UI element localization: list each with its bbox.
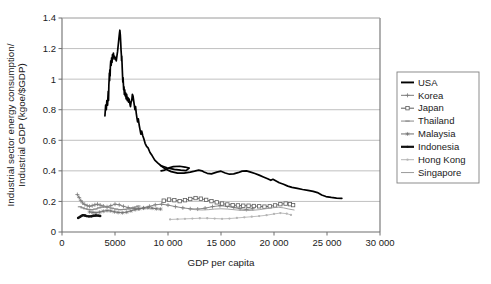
series-hong-kong [169, 212, 292, 221]
series-indonesia [77, 214, 101, 219]
legend-label: USA [418, 77, 438, 88]
series-marker [279, 212, 281, 214]
series-marker [117, 203, 121, 207]
legend-label: Indonesia [418, 141, 460, 152]
series-marker [257, 205, 260, 208]
legend-label: Malaysia [418, 128, 456, 139]
x-tick-label: 10 000 [153, 237, 182, 248]
series-marker [75, 193, 79, 197]
chart-figure: 00.20.40.60.811.21.4 0500010 00015 00020… [0, 0, 491, 284]
series-line [105, 30, 342, 198]
series-marker [252, 204, 255, 207]
legend-label: Thailand [418, 115, 454, 126]
series-marker [194, 196, 197, 199]
series-marker [88, 204, 92, 208]
series-usa [105, 30, 342, 198]
series-marker [142, 206, 146, 210]
legend-label: Korea [418, 90, 444, 101]
series-marker [88, 210, 92, 214]
series-marker [162, 199, 165, 202]
series-marker [184, 218, 186, 220]
series-marker [116, 210, 120, 214]
x-axis-title: GDP per capita [188, 257, 255, 268]
series-marker [120, 211, 124, 215]
legend-label: Japan [418, 102, 444, 113]
series-marker [221, 218, 223, 220]
y-tick-label: 1.2 [43, 43, 56, 54]
y-tick-label: 1 [51, 74, 56, 85]
y-tick-labels: 00.20.40.60.811.21.4 [43, 12, 56, 237]
y-tick-label: 0.6 [43, 135, 56, 146]
series-marker [91, 210, 95, 214]
series-marker [220, 202, 223, 205]
series-marker [196, 207, 200, 211]
series-marker [101, 209, 105, 213]
series-marker [243, 216, 245, 218]
series-marker [166, 203, 170, 207]
series-marker [290, 214, 292, 216]
series-marker [206, 217, 208, 219]
series-marker [279, 202, 282, 205]
series-marker [236, 217, 238, 219]
series-marker [273, 213, 275, 215]
series-marker [96, 202, 100, 206]
series-marker [105, 209, 109, 213]
series-marker [251, 216, 253, 218]
series-marker [210, 199, 213, 202]
series-marker [150, 206, 154, 210]
series-marker [86, 215, 88, 217]
series-marker [160, 202, 164, 206]
series-marker [284, 202, 287, 205]
y-axis-title-line2: Industrial GDP (kgoe/$GDP) [16, 63, 27, 186]
series-marker [121, 204, 125, 208]
series-marker [226, 203, 229, 206]
y-tick-label: 0.2 [43, 196, 56, 207]
y-tick-label: 0.8 [43, 104, 56, 115]
axis-titles: GDP per capitaIndustrial sector energy c… [5, 43, 255, 268]
y-tick-label: 0.4 [43, 165, 56, 176]
series-marker [406, 106, 409, 109]
series-marker [263, 205, 266, 208]
series-marker [176, 218, 178, 220]
series-marker [189, 197, 192, 200]
x-tick-label: 0 [59, 237, 64, 248]
x-tick-label: 25 000 [312, 237, 341, 248]
x-tick-label: 15 000 [206, 237, 235, 248]
series-marker [99, 215, 101, 217]
series-marker [90, 215, 92, 217]
x-tick-label: 5000 [104, 237, 125, 248]
series-marker [90, 204, 94, 208]
series-marker [183, 199, 186, 202]
series-marker [154, 207, 158, 211]
series-marker [173, 205, 177, 209]
series-marker [204, 198, 207, 201]
series-marker [231, 203, 234, 206]
series-japan [162, 196, 295, 208]
series-marker [265, 214, 267, 216]
legend-label: Singapore [418, 167, 461, 178]
series-marker [191, 217, 193, 219]
series-marker [228, 217, 230, 219]
series-marker [181, 206, 185, 210]
gridlines-group [62, 18, 380, 201]
series-marker [258, 215, 260, 217]
series-marker [146, 206, 150, 210]
series-marker [112, 210, 116, 214]
series-marker [92, 215, 94, 217]
series-marker [109, 209, 113, 213]
series-marker [125, 210, 129, 214]
legend[interactable]: USAKoreaJapanThailandMalaysiaIndonesiaHo… [397, 72, 479, 183]
y-tick-label: 0 [51, 226, 56, 237]
y-tick-label: 1.4 [43, 12, 56, 23]
series-marker [242, 204, 245, 207]
x-tick-label: 20 000 [259, 237, 288, 248]
series-marker [129, 209, 133, 213]
series-marker [94, 211, 98, 215]
series-marker [199, 217, 201, 219]
series-marker [173, 199, 176, 202]
x-tick-label: 30 000 [365, 237, 394, 248]
legend-label: Hong Kong [418, 154, 466, 165]
series-marker [93, 203, 97, 207]
series-marker [178, 199, 181, 202]
series-marker [215, 201, 218, 204]
